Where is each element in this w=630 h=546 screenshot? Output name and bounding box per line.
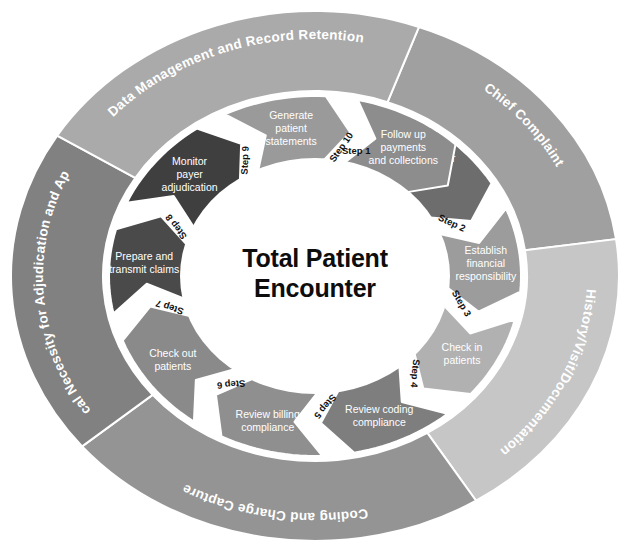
circular-process-wheel: Chief ComplaintHistory/Visit/Documentati…	[0, 0, 630, 546]
step-label-6: Check outpatients	[149, 347, 196, 372]
step-label-4: Review codingcompliance	[345, 403, 413, 428]
step-label-3: Check inpatients	[442, 341, 483, 366]
step-number-6: Step 6	[216, 378, 245, 391]
step-label-7: Prepare andtransmit claims	[109, 250, 179, 275]
center-title-line-1: Total Patient	[242, 244, 388, 272]
center-title-line-2: Encounter	[254, 274, 376, 302]
step-number-4: Step 4	[409, 359, 423, 389]
step-number-9: Step 9	[239, 146, 251, 175]
step-label-5: Review billingcompliance	[236, 408, 300, 433]
process-wheel-diagram: Chief ComplaintHistory/Visit/Documentati…	[0, 0, 630, 546]
